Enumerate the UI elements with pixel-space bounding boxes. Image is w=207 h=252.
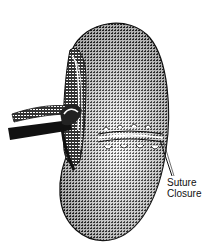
- kidney-drawing: [0, 0, 207, 252]
- kidney-illustration: [0, 0, 207, 252]
- label-line-2: Closure: [167, 188, 201, 199]
- suture-closure-label: Suture Closure: [167, 177, 201, 199]
- label-line-1: Suture: [167, 177, 201, 188]
